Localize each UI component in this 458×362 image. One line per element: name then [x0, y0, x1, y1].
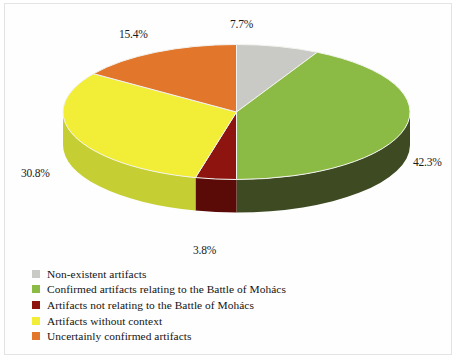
legend-item-label: Confirmed artifacts relating to the Batt…	[47, 283, 286, 295]
legend-swatch-icon	[32, 317, 40, 325]
slice-label-grey: 7.7%	[230, 18, 253, 30]
legend-swatch-icon	[32, 301, 40, 309]
slice-label-yellow: 30.8%	[21, 167, 50, 179]
slice-label-red: 3.8%	[193, 244, 216, 256]
legend-item[interactable]: Artifacts without context	[29, 313, 429, 329]
legend-item[interactable]: Uncertainly confirmed artifacts	[29, 328, 429, 344]
legend-item[interactable]: Confirmed artifacts relating to the Batt…	[29, 282, 429, 298]
legend-swatch-icon	[32, 270, 40, 278]
legend-item[interactable]: Non-existent artifacts	[29, 266, 429, 282]
chart-figure: 7.7% 15.4% 42.3% 30.8% 3.8% Non-existent…	[4, 3, 452, 355]
chart-legend: Non-existent artifacts Confirmed artifac…	[29, 266, 429, 344]
legend-item-label: Uncertainly confirmed artifacts	[47, 330, 192, 342]
legend-item-label: Artifacts without context	[47, 315, 162, 327]
pie-chart: 7.7% 15.4% 42.3% 30.8% 3.8%	[5, 4, 453, 266]
legend-item-label: Artifacts not relating to the Battle of …	[47, 299, 254, 311]
legend-swatch-icon	[32, 285, 40, 293]
slice-label-orange: 15.4%	[119, 28, 148, 40]
slice-label-green: 42.3%	[413, 156, 442, 168]
pie-top-faces	[63, 45, 410, 180]
legend-item-label: Non-existent artifacts	[47, 268, 146, 280]
pie-slice-side	[195, 178, 236, 213]
legend-swatch-icon	[32, 332, 40, 340]
legend-item[interactable]: Artifacts not relating to the Battle of …	[29, 297, 429, 313]
pie-chart-svg	[5, 4, 453, 266]
